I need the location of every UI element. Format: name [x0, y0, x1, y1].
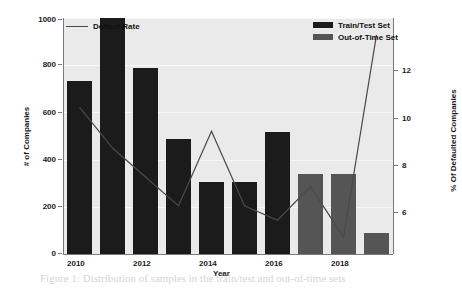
- ytick-left-400: 400: [28, 155, 56, 164]
- xtick-2010: 2010: [67, 259, 85, 268]
- legend-label-out-of-time: Out-of-Time Set: [338, 33, 398, 42]
- x-axis-line: [63, 254, 393, 255]
- ytick-mark-right-12: [394, 70, 398, 71]
- ytick-right-10: 10: [402, 114, 411, 123]
- y-axis-right-title: % Of Defaulted Companies: [449, 76, 458, 206]
- figure-root: investigate the impact to our models if …: [0, 0, 462, 289]
- ytick-right-6: 6: [402, 208, 406, 217]
- xtick-2014: 2014: [199, 259, 217, 268]
- ytick-right-8: 8: [402, 161, 406, 170]
- ytick-left-0: 0: [28, 249, 56, 258]
- ytick-right-12: 12: [402, 66, 411, 75]
- legend-label-default-rate: Default Rate: [93, 22, 140, 31]
- xtick-2012: 2012: [133, 259, 151, 268]
- legend-row-train-test: Train/Test Set: [313, 20, 398, 30]
- ytick-mark-left-200: [58, 206, 62, 207]
- ytick-left-600: 600: [28, 108, 56, 117]
- train-swatch-icon: [313, 22, 333, 28]
- legend-row-default-rate: Default Rate: [66, 21, 140, 31]
- oot-swatch-icon: [313, 34, 333, 40]
- x-axis-title: Year: [213, 269, 230, 278]
- legend-row-out-of-time: Out-of-Time Set: [313, 32, 398, 42]
- ytick-mark-right-10: [394, 118, 398, 119]
- y-axis-right-line: [393, 18, 394, 254]
- ytick-mark-right-8: [394, 165, 398, 166]
- ytick-mark-right-6: [394, 212, 398, 213]
- ytick-mark-left-0: [58, 253, 62, 254]
- ytick-mark-left-1000: [58, 19, 62, 20]
- ytick-left-1000: 1000: [28, 15, 56, 24]
- ytick-mark-left-800: [58, 64, 62, 65]
- legend-bars: Train/Test Set Out-of-Time Set: [313, 20, 398, 42]
- xtick-2016: 2016: [265, 259, 283, 268]
- line-swatch-icon: [66, 26, 88, 27]
- y-axis-left-title: # of Companies: [22, 97, 31, 177]
- ytick-left-200: 200: [28, 202, 56, 211]
- ytick-mark-left-400: [58, 159, 62, 160]
- xtick-2018: 2018: [331, 259, 349, 268]
- ytick-mark-left-600: [58, 112, 62, 113]
- legend-label-train-test: Train/Test Set: [338, 21, 390, 30]
- default-rate-line: [63, 18, 393, 254]
- default-rate-polyline: [80, 35, 377, 237]
- legend-line: Default Rate: [66, 21, 140, 31]
- ytick-left-800: 800: [28, 60, 56, 69]
- ghost-text-9: Figure 1: Distribution of samples in the…: [40, 272, 346, 284]
